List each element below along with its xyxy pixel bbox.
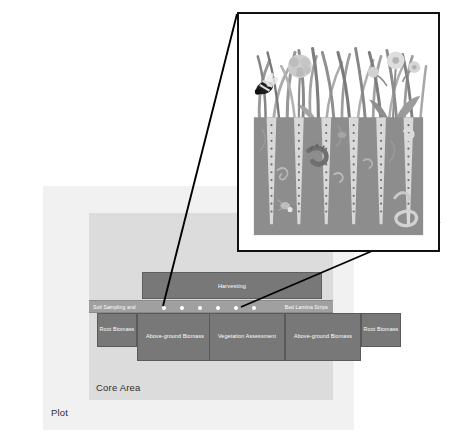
inset-photo-frame bbox=[237, 12, 440, 252]
soil-sampling-label-left: Soil Sampling and bbox=[93, 304, 136, 310]
core-area-label: Core Area bbox=[96, 382, 141, 393]
sampling-point-dot bbox=[162, 306, 166, 310]
soil-profile-illustration bbox=[248, 23, 429, 241]
sampling-point-dot bbox=[198, 306, 202, 310]
harvesting-band-label: Harvesting bbox=[218, 283, 246, 289]
harvesting-band: Harvesting bbox=[142, 272, 322, 299]
plot-area-label: Plot bbox=[51, 407, 68, 418]
sampling-point-dot bbox=[252, 306, 256, 310]
quadrat-box-label: Root Biomass bbox=[363, 326, 400, 334]
quadrat-box-row: Root Biomass Above-ground Biomass Vegeta… bbox=[97, 313, 325, 361]
quadrat-box-label: Root Biomass bbox=[99, 326, 136, 334]
quadrat-box-vegetation-assessment: Vegetation Assessment bbox=[209, 313, 285, 361]
quadrat-box-root-biomass-right: Root Biomass bbox=[361, 313, 401, 347]
soil-sampling-strip: Soil Sampling and Bed Lamina Strips bbox=[89, 300, 333, 313]
vegetation-layer bbox=[254, 49, 426, 122]
soil-sampling-label-right: Bed Lamina Strips bbox=[285, 304, 328, 310]
quadrat-box-label: Vegetation Assessment bbox=[217, 333, 277, 341]
sampling-point-dot bbox=[234, 306, 238, 310]
figure-canvas: Plot Core Area Harvesting Soil Sampling … bbox=[0, 0, 450, 443]
quadrat-box-label: Above-ground Biomass bbox=[293, 333, 353, 341]
sampling-point-dot bbox=[216, 306, 220, 310]
quadrat-box-above-ground-biomass-right: Above-ground Biomass bbox=[285, 313, 361, 361]
quadrat-box-above-ground-biomass-left: Above-ground Biomass bbox=[137, 313, 213, 361]
quadrat-box-label: Above-ground Biomass bbox=[145, 333, 205, 341]
sampling-point-dot bbox=[180, 306, 184, 310]
quadrat-box-root-biomass-left: Root Biomass bbox=[97, 313, 137, 347]
soil-invertebrate bbox=[338, 132, 347, 138]
